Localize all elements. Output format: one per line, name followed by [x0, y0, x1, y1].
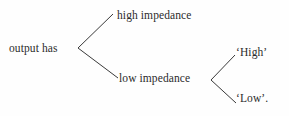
- edge-low-impedance-to-high-quoted: [211, 55, 235, 80]
- node-low-impedance: low impedance: [119, 72, 190, 85]
- node-high-quoted: ‘High’: [236, 46, 267, 59]
- edge-root-to-high-impedance: [78, 14, 113, 48]
- node-output-has: output has: [9, 42, 58, 55]
- edge-root-to-low-impedance: [78, 48, 118, 78]
- edge-low-impedance-to-low-quoted: [211, 80, 236, 103]
- node-low-quoted: ‘Low’.: [236, 92, 268, 105]
- node-high-impedance: high impedance: [117, 9, 192, 22]
- tree-diagram: output has high impedance low impedance …: [0, 0, 289, 116]
